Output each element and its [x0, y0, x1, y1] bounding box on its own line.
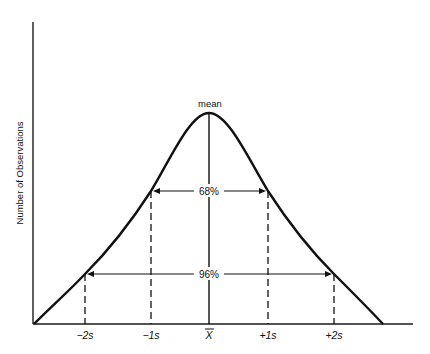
range-68-arrow: 68%	[153, 184, 266, 197]
tick-label-minus-2s: −2s	[76, 329, 94, 341]
tick-label-mean: X	[204, 329, 214, 341]
tick-label-plus-2s: +2s	[325, 329, 343, 341]
pct-68-label: 68%	[199, 186, 219, 197]
tick-label-plus-1s: +1s	[259, 329, 277, 341]
svg-text:X: X	[204, 329, 213, 341]
mean-label: mean	[198, 98, 222, 109]
range-96-arrow: 96%	[87, 267, 332, 280]
pct-96-label: 96%	[199, 269, 219, 280]
normal-distribution-diagram: Number of Observations 68% 96% mean −2s …	[0, 0, 430, 354]
y-axis-label: Number of Observations	[14, 121, 25, 224]
tick-label-minus-1s: −1s	[142, 329, 160, 341]
